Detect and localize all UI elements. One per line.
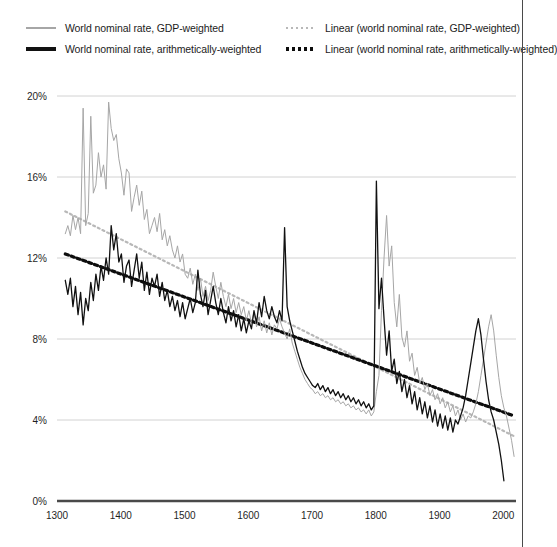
x-tick-label: 1300 — [46, 510, 69, 521]
legend-swatch-dotted-black-icon — [286, 43, 316, 55]
x-tick-label: 1600 — [237, 510, 260, 521]
x-tick-label: 1700 — [301, 510, 324, 521]
trendline — [65, 211, 514, 436]
legend-label: Linear (world nominal rate, GDP-weighted… — [325, 22, 520, 34]
y-tick-label: 16% — [27, 172, 47, 183]
y-tick-label: 12% — [27, 253, 47, 264]
x-tick-label: 2000 — [492, 510, 515, 521]
panel-right-border — [522, 0, 523, 547]
legend-item-linear-gdp-weighted: Linear (world nominal rate, GDP-weighted… — [286, 22, 520, 34]
data-series — [65, 102, 514, 481]
plot-area: 0%4%8%12%16%20% 130014001500160017001800… — [0, 70, 535, 547]
chart-legend: World nominal rate, GDP-weighted World n… — [0, 0, 535, 70]
chart-svg: 0%4%8%12%16%20% 130014001500160017001800… — [0, 70, 535, 547]
legend-swatch-solid-black-icon — [26, 43, 56, 55]
legend-label: World nominal rate, arithmetically-weigh… — [65, 43, 261, 55]
legend-item-arithmetically-weighted: World nominal rate, arithmetically-weigh… — [26, 43, 261, 55]
legend-swatch-solid-gray-icon — [26, 22, 56, 34]
x-tick-label: 1500 — [173, 510, 196, 521]
legend-item-gdp-weighted: World nominal rate, GDP-weighted — [26, 22, 224, 34]
gridlines — [57, 96, 516, 420]
series-line — [65, 181, 504, 481]
x-axis-tick-labels: 13001400150016001700180019002000 — [46, 510, 515, 521]
trendlines — [65, 211, 514, 436]
x-tick-label: 1400 — [110, 510, 133, 521]
x-tick-label: 1900 — [428, 510, 451, 521]
legend-swatch-dotted-gray-icon — [286, 22, 316, 34]
legend-item-linear-arithmetically-weighted: Linear (world nominal rate, arithmetical… — [286, 43, 557, 55]
y-tick-label: 20% — [27, 91, 47, 102]
y-tick-label: 4% — [33, 415, 48, 426]
y-tick-label: 8% — [33, 334, 48, 345]
x-tick-label: 1800 — [365, 510, 388, 521]
y-tick-label: 0% — [33, 496, 48, 507]
y-axis-tick-labels: 0%4%8%12%16%20% — [27, 91, 47, 507]
legend-label: World nominal rate, GDP-weighted — [65, 22, 224, 34]
